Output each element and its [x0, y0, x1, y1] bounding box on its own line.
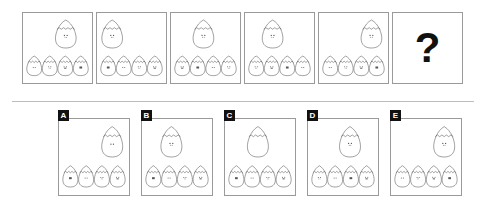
panel-4 [244, 12, 315, 84]
egg-figure-group [245, 13, 314, 83]
egg-figure-group [142, 119, 212, 195]
option-c[interactable]: C [224, 118, 296, 196]
panel-2 [96, 12, 167, 84]
egg-figure-group [171, 13, 240, 83]
egg-figure-group [308, 119, 378, 195]
panel-question: ? [392, 12, 463, 84]
panel-5 [318, 12, 389, 84]
option-label-c: C [224, 110, 235, 121]
egg-figure-group [225, 119, 295, 195]
panel-1 [22, 12, 93, 84]
option-label-d: D [307, 110, 318, 121]
egg-figure-group [23, 13, 92, 83]
option-label-a: A [58, 110, 69, 121]
question-sequence-row: ? [22, 12, 468, 84]
option-b[interactable]: B [141, 118, 213, 196]
option-d[interactable]: D [307, 118, 379, 196]
egg-figure-group [97, 13, 166, 83]
egg-figure-group [59, 119, 129, 195]
panel-3 [170, 12, 241, 84]
egg-figure-group [391, 119, 461, 195]
egg-figure-group [319, 13, 388, 83]
option-label-b: B [141, 110, 152, 121]
option-e[interactable]: E [390, 118, 462, 196]
section-divider [12, 101, 474, 102]
option-label-e: E [390, 110, 401, 121]
option-a[interactable]: A [58, 118, 130, 196]
puzzle-stage: ? ABCDE [0, 0, 488, 210]
answer-options-row: ABCDE [58, 118, 476, 202]
question-mark: ? [393, 13, 462, 83]
